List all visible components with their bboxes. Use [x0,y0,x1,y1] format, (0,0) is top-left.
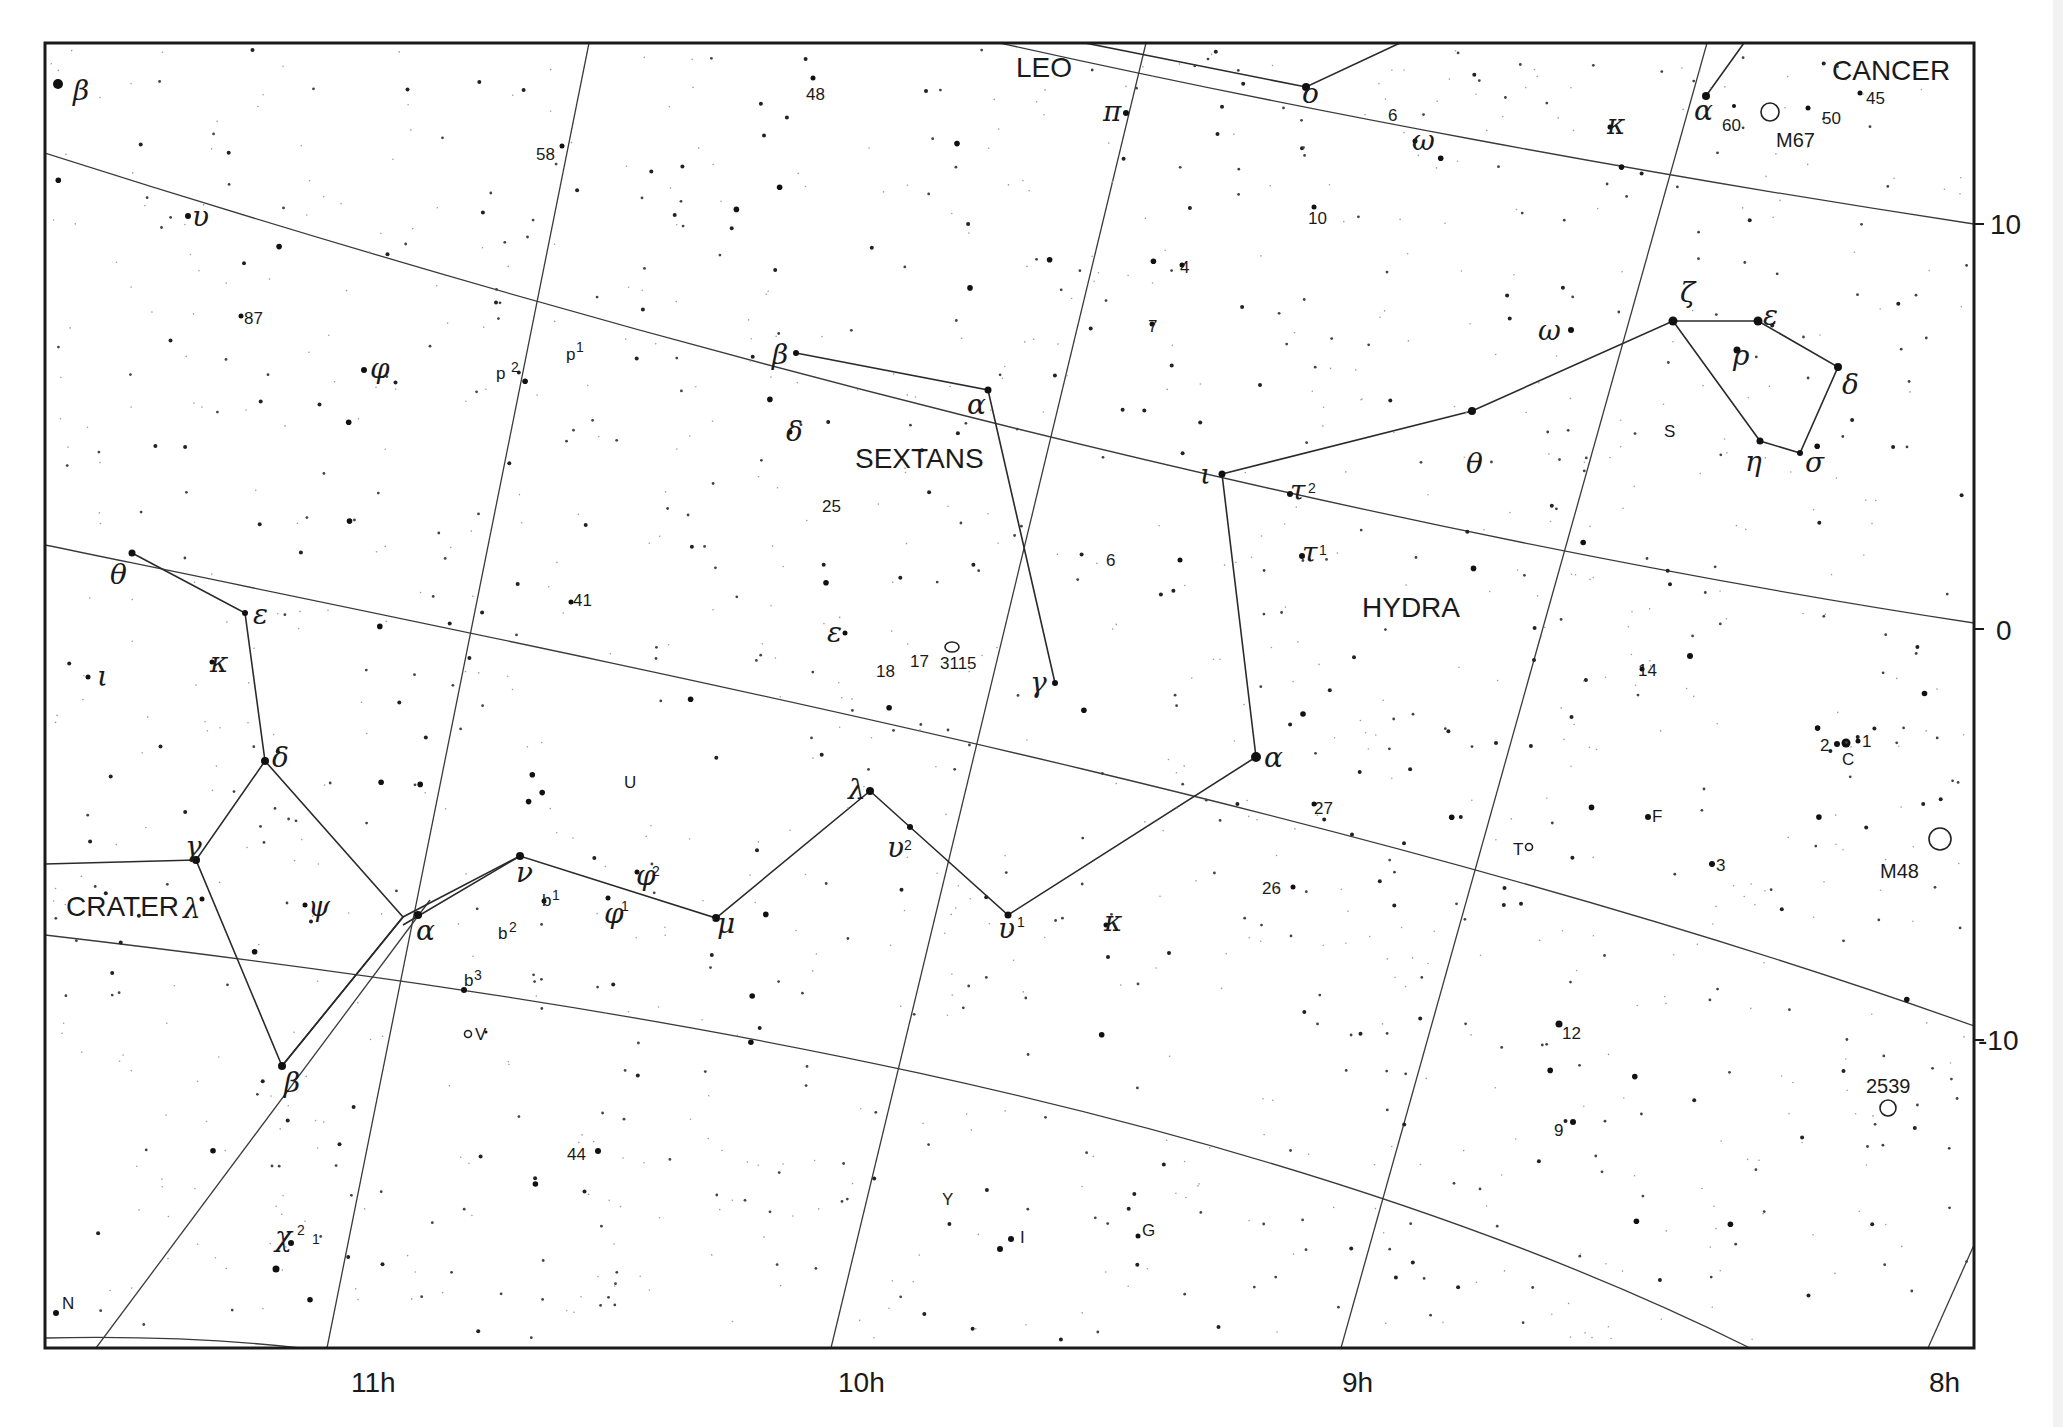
star-number-label: 4 [1180,258,1189,277]
greek-star-label: β [72,74,89,107]
star-number-label: U [624,773,636,792]
star-number-label: 45 [1866,89,1885,108]
star-number-label: 9 [1554,1121,1563,1140]
cancer-figure [1706,43,1744,96]
star-number-label: b [542,891,551,910]
star-chart: LEOCANCERSEXTANSHYDRACRATER βυφθεκιδγλψα… [0,0,2063,1427]
constellation-label: SEXTANS [855,443,984,474]
ra-label: 8h [1929,1367,1960,1398]
m48-cluster-icon [1929,828,1951,850]
var-star-v-icon [465,1031,472,1038]
star-number-label: 10 [1308,209,1327,228]
greek-star-label: κ [209,646,228,679]
constellation-label: CANCER [1832,55,1950,86]
superscript-label: 1 [621,898,629,914]
superscript-label: 1 [312,1231,320,1247]
superscript-label: 1 [1319,542,1327,558]
greek-star-label: υ [998,912,1015,945]
coordinate-grid [45,43,1974,1348]
star-number-label: V [475,1025,487,1044]
greek-star-label: σ [1805,446,1825,479]
greek-star-label: ζ [1680,276,1697,309]
dec-line-minus10 [45,935,1750,1348]
ngc2539-cluster-icon [1880,1100,1896,1116]
greek-star-label: χ [273,1220,294,1253]
crater-hydra-link [45,860,196,864]
small-superscript-label: 2 [511,359,519,375]
greek-star-label: θ [1466,447,1483,480]
superscript-label: 1 [1017,914,1025,930]
star-number-label: S [1664,422,1675,441]
chart-frame [45,43,1974,1348]
greek-star-label: δ [272,741,289,774]
star-number-label: 58 [536,145,555,164]
greek-star-label: ε [1763,299,1778,332]
greek-star-label: υ [887,831,904,864]
greek-star-label: ν [516,856,533,889]
star-number-label: p [496,364,505,383]
star-number-label: 50 [1822,109,1841,128]
star-number-label: 12 [1562,1024,1581,1043]
ra-line-12h [96,900,430,1348]
dec-label: -10 [1978,1025,2018,1056]
small-superscript-label: 1 [552,887,560,903]
star-number-label: p [566,345,575,364]
star-number-label: 6 [1106,551,1115,570]
greek-star-label: ω [1412,124,1435,157]
star-number-label: 41 [573,591,592,610]
greek-star-label: ι [1200,458,1211,491]
star-number-label: 6 [1388,106,1397,125]
constellation-label: LEO [1016,52,1072,83]
ra-line-10h [831,43,1146,1348]
dec-axis-labels: 100-10 [1978,209,2021,1056]
ra-axis-labels: 11h10h9h8h [351,1367,1960,1398]
deep-sky-objects [465,103,1952,1116]
greek-star-label: ι [97,660,108,693]
object-labels: M67M482539 [1776,129,1919,1097]
greek-star-label: τ [1290,474,1306,507]
greek-star-label: ρ [1732,339,1750,372]
ra-line-9h [1341,43,1707,1348]
ra-label: 10h [838,1367,885,1398]
dec-label: 0 [1996,615,2012,646]
star-number-label: 26 [1262,879,1281,898]
star-number-label: N [62,1294,74,1313]
star-number-label: 60 [1722,116,1741,135]
small-superscript-label: 2 [509,919,517,935]
small-superscript-label: 3 [474,967,482,983]
dec-label: 10 [1990,209,2021,240]
deep-sky-label: M48 [1880,860,1919,882]
star-number-label: 3 [1716,856,1725,875]
small-superscript-label: 1 [576,339,584,355]
greek-star-label: τ [1302,536,1318,569]
superscript-label: 2 [652,863,660,879]
superscript-label: 2 [1308,480,1316,496]
m67-cluster-icon [1761,103,1779,121]
dec-line-0 [45,545,1974,1026]
star-number-label: 7 [1148,317,1157,336]
star-number-label: 14 [1638,661,1657,680]
star-number-label: G [1142,1221,1155,1240]
star-number-label: 1 [1862,732,1871,751]
star-number-label: 18 [876,662,895,681]
star-number-label: Y [942,1190,953,1209]
star-number-label: 48 [806,85,825,104]
deep-sky-label: 2539 [1866,1075,1911,1097]
star-superscripts: 21212121 [297,480,1327,1247]
greek-star-label: μ [717,907,735,940]
greek-star-label: ε [827,616,842,649]
star-number-label: C [1842,750,1854,769]
constellation-label: HYDRA [1362,592,1460,623]
greek-star-label: ω [1538,314,1561,347]
greek-star-label: α [416,914,435,947]
star-number-label: 25 [822,497,841,516]
deep-sky-label: M67 [1776,129,1815,151]
ngc3115-galaxy-icon [945,642,959,652]
star-number-label: 3115 [940,654,977,673]
greek-star-label: κ [1103,905,1122,938]
greek-star-label: α [1264,741,1283,774]
superscript-label: 2 [297,1222,305,1238]
field-stars [51,48,1969,1342]
star-number-label: 27 [1314,799,1333,818]
greek-star-label: η [1745,445,1762,478]
